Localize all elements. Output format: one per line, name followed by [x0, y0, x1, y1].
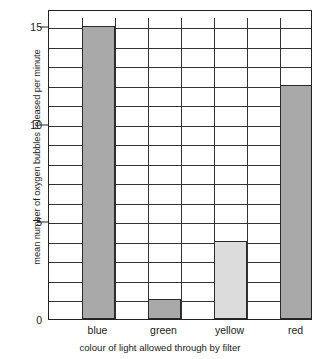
x-axis-tick-labels: bluegreenyellowred — [48, 324, 312, 340]
y-tick-label-15: 15 — [16, 21, 42, 33]
gridline-vertical — [148, 18, 149, 319]
plot-area — [48, 10, 312, 320]
y-tickmark-10 — [40, 124, 49, 125]
y-tick-label-10: 10 — [16, 119, 42, 131]
y-tick-label-5: 5 — [16, 216, 42, 228]
bar-green — [148, 299, 181, 319]
bar-blue — [82, 26, 115, 319]
x-tick-label-yellow: yellow — [215, 324, 244, 336]
x-tick-label-green: green — [150, 324, 177, 336]
x-axis-title: colour of light allowed through by filte… — [0, 342, 320, 353]
y-tickmark-15 — [40, 27, 49, 28]
y-tick-label-0: 0 — [16, 314, 42, 326]
grid-region — [49, 18, 311, 319]
x-tick-label-red: red — [288, 324, 303, 336]
gridline-vertical — [181, 18, 182, 319]
y-tickmark-5 — [40, 222, 49, 223]
x-tick-label-blue: blue — [88, 324, 108, 336]
y-axis-tick-labels: 051015 — [14, 0, 42, 359]
gridline-vertical — [247, 18, 248, 319]
bar-red — [280, 85, 311, 319]
bar-yellow — [214, 241, 247, 319]
bar-chart-figure: mean number of oxygen bubbles released p… — [0, 0, 320, 359]
gridline-vertical — [115, 18, 116, 319]
